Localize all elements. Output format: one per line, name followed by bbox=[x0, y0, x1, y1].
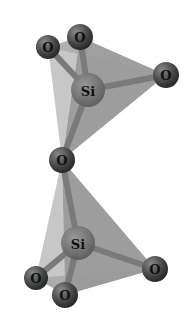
atom-o-top-mid: O bbox=[67, 24, 93, 50]
silicate-diagram: O O O Si O Si O O O bbox=[0, 0, 192, 323]
svg-text:O: O bbox=[42, 40, 53, 55]
atom-o-bottom-left: O bbox=[24, 266, 48, 290]
atom-o-bottom-right: O bbox=[142, 256, 168, 282]
atom-si-bottom: Si bbox=[61, 226, 95, 260]
atom-o-bottom-mid: O bbox=[52, 282, 78, 308]
top-tetrahedron bbox=[48, 37, 166, 160]
svg-text:O: O bbox=[56, 153, 67, 168]
svg-text:Si: Si bbox=[71, 237, 85, 252]
svg-text:O: O bbox=[160, 68, 171, 83]
svg-text:Si: Si bbox=[81, 84, 95, 99]
atom-si-top: Si bbox=[71, 73, 105, 107]
svg-text:O: O bbox=[59, 288, 70, 303]
svg-text:O: O bbox=[30, 271, 41, 286]
atom-o-top-left: O bbox=[36, 35, 60, 59]
atom-o-top-right: O bbox=[153, 62, 179, 88]
svg-text:O: O bbox=[74, 30, 85, 45]
atom-o-bridge: O bbox=[49, 147, 75, 173]
svg-text:O: O bbox=[149, 262, 160, 277]
bottom-tetrahedron bbox=[36, 160, 155, 295]
